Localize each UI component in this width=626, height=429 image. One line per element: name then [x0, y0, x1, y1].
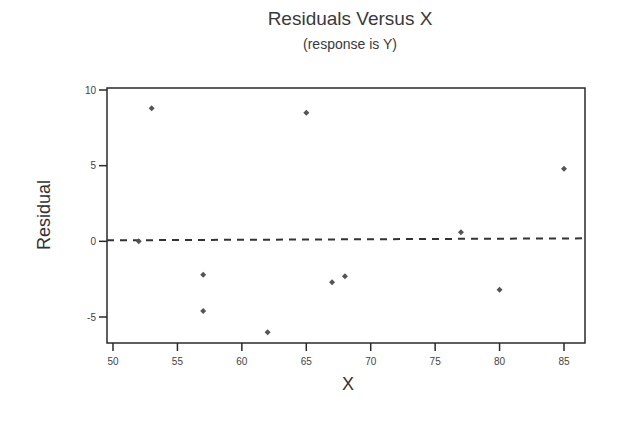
plot-frame	[107, 88, 585, 343]
data-points	[136, 105, 567, 335]
data-point	[458, 229, 464, 235]
zero-reference-line	[107, 238, 585, 240]
data-point	[561, 166, 567, 172]
y-tick-label: 5	[90, 160, 96, 171]
data-point	[200, 272, 206, 278]
x-axis-ticks: 5055606570758085	[107, 343, 570, 367]
y-axis-label: Residual	[34, 180, 54, 250]
data-point	[329, 279, 335, 285]
y-tick-label: 10	[85, 85, 97, 96]
x-tick-label: 85	[558, 356, 570, 367]
x-tick-label: 65	[301, 356, 313, 367]
data-point	[342, 273, 348, 279]
scatter-plot: -50510 5055606570758085 X Residual	[0, 0, 626, 429]
x-tick-label: 80	[494, 356, 506, 367]
data-point	[265, 329, 271, 335]
y-tick-label: 0	[90, 236, 96, 247]
x-tick-label: 55	[172, 356, 184, 367]
x-axis-label: X	[342, 374, 354, 394]
x-tick-label: 60	[236, 356, 248, 367]
y-axis-ticks: -50510	[85, 85, 107, 323]
y-tick-label: -5	[87, 312, 96, 323]
x-tick-label: 70	[365, 356, 377, 367]
data-point	[200, 308, 206, 314]
x-tick-label: 50	[107, 356, 119, 367]
data-point	[149, 105, 155, 111]
x-tick-label: 75	[430, 356, 442, 367]
data-point	[303, 110, 309, 116]
data-point	[497, 287, 503, 293]
